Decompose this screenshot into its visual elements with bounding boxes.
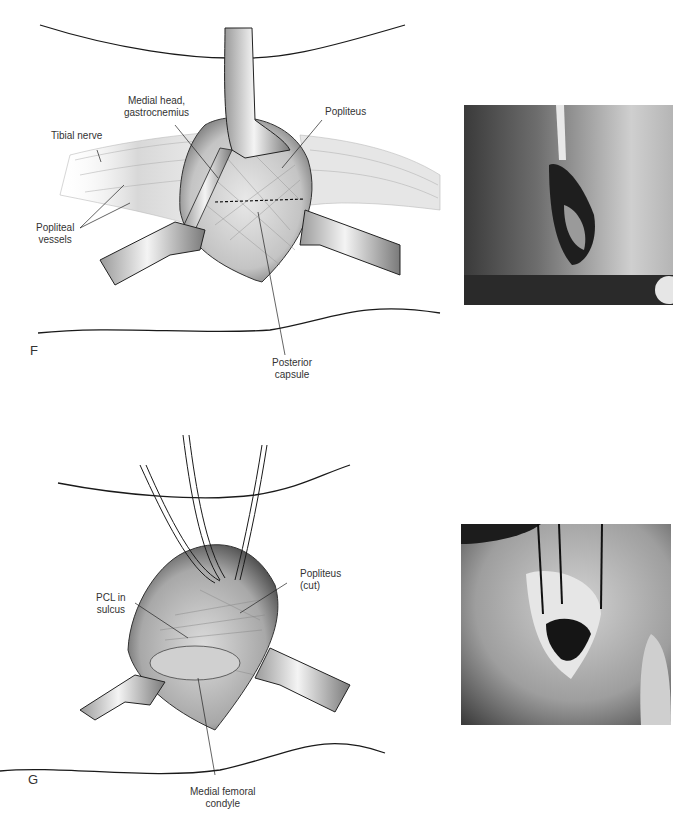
label-line: Posterior (272, 357, 312, 369)
surgical-illustration-g (0, 420, 460, 821)
label-medial-femoral-condyle: Medial femoral condyle (190, 786, 256, 810)
label-line: sulcus (96, 604, 126, 616)
label-line: Medial femoral (190, 786, 256, 798)
panel-letter-g: G (28, 772, 38, 787)
intraoperative-photo-g (461, 524, 671, 725)
label-popliteal-vessels: Popliteal vessels (36, 222, 74, 246)
label-line: capsule (272, 369, 312, 381)
label-medial-head-gastrocnemius: Medial head, gastrocnemius (124, 95, 189, 119)
photo-f (464, 105, 673, 305)
figure-panel-f: Medial head, gastrocnemius Popliteus Tib… (0, 0, 695, 410)
surgical-illustration-f (0, 0, 460, 410)
label-line: PCL in (96, 592, 126, 604)
label-popliteus: Popliteus (325, 106, 366, 118)
label-line: condyle (190, 798, 256, 810)
photo-g (461, 524, 671, 725)
intraoperative-photo-f (464, 105, 673, 305)
label-posterior-capsule: Posterior capsule (272, 357, 312, 381)
label-line: Popliteus (300, 568, 341, 580)
label-line: vessels (36, 234, 74, 246)
label-popliteus-cut: Popliteus (cut) (300, 568, 341, 592)
figure-panel-g: PCL in sulcus Popliteus (cut) Medial fem… (0, 420, 695, 821)
label-tibial-nerve: Tibial nerve (51, 130, 102, 142)
label-line: Medial head, (124, 95, 189, 107)
label-line: Popliteal (36, 222, 74, 234)
label-line: (cut) (300, 580, 341, 592)
panel-letter-f: F (30, 343, 38, 358)
label-pcl-in-sulcus: PCL in sulcus (96, 592, 126, 616)
label-line: gastrocnemius (124, 107, 189, 119)
